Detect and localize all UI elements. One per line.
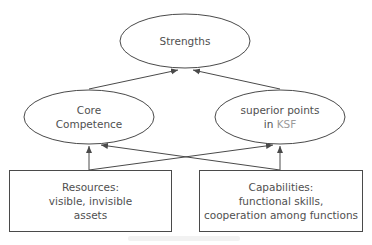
resources-line-1: Resources: (62, 180, 119, 194)
core-competence-node: Core Competence (24, 90, 154, 144)
capabilities-node: Capabilities: functional skills, coopera… (200, 171, 362, 231)
superior-points-line-2: in KSF (264, 117, 297, 131)
core-competence-line-1: Core (77, 103, 101, 117)
strengths-node: Strengths (120, 14, 250, 68)
superior-points-line-1: superior points (241, 103, 320, 117)
resources-line-3: assets (74, 208, 107, 222)
resources-line-2: visible, invisible (49, 194, 132, 208)
faint-caption (128, 236, 240, 241)
strengths-label: Strengths (160, 34, 211, 48)
resources-node: Resources: visible, invisible assets (10, 171, 171, 231)
arrow-core-to-strengths (89, 70, 178, 89)
arrow-resources-to-superior (89, 145, 273, 170)
ksf-term: KSF (277, 118, 297, 130)
capabilities-line-1: Capabilities: (249, 180, 314, 194)
core-competence-line-2: Competence (56, 117, 123, 131)
capabilities-line-3: cooperation among functions (204, 208, 358, 222)
capabilities-line-2: functional skills, (239, 194, 324, 208)
superior-points-prefix: in (264, 118, 277, 130)
arrow-capabilities-to-core (101, 145, 280, 170)
arrow-superior-to-strengths (193, 70, 280, 89)
superior-points-node: superior points in KSF (215, 90, 345, 144)
